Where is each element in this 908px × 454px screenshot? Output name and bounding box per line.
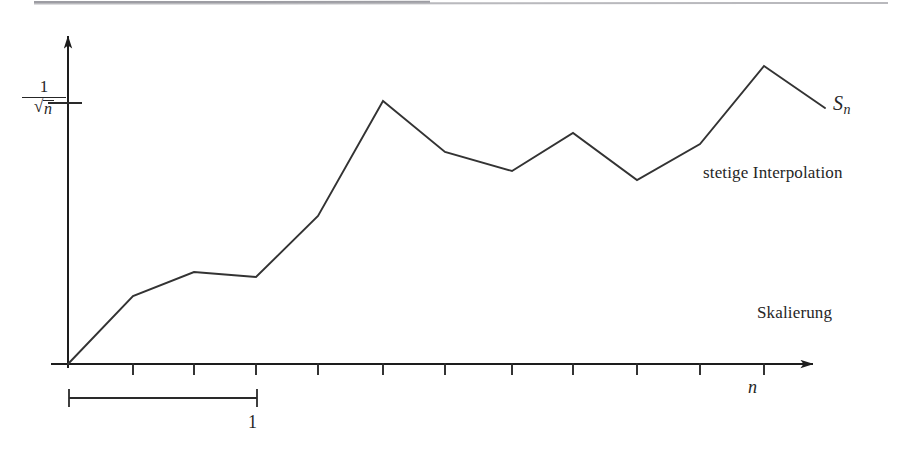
- series-label-subscript: n: [844, 102, 851, 117]
- axes-group: [51, 36, 813, 368]
- y-axis-label-denominator: √ n: [22, 98, 66, 118]
- scale-bracket: [69, 389, 257, 407]
- y-axis-label: 1 √ n: [22, 78, 66, 118]
- series-label-sn: Sn: [833, 92, 851, 118]
- scan-artifact: [34, 2, 888, 4]
- annotation-stetige-interpolation: stetige Interpolation: [703, 163, 843, 183]
- sqrt-radicand: n: [43, 100, 54, 118]
- sqrt-radical-icon: √: [34, 98, 43, 115]
- x-axis-label: n: [748, 377, 757, 398]
- figure-canvas: [0, 0, 908, 454]
- bracket-label-one: 1: [248, 412, 257, 433]
- annotation-skalierung: Skalierung: [757, 303, 832, 323]
- y-axis-label-numerator: 1: [22, 78, 66, 97]
- series-label-base: S: [833, 92, 843, 114]
- sqrt-group: √ n: [34, 99, 54, 118]
- figure-root: 1 √ n Sn stetige Interpolation Skalierun…: [0, 0, 908, 454]
- series-polyline-sn: [68, 66, 825, 364]
